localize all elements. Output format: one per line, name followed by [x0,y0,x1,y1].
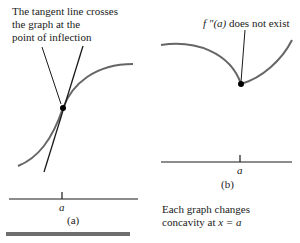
footer-note-text: concavity at [162,216,218,228]
panel-a-graph [9,46,138,199]
annotation-a-line1: The tangent line crosses [12,5,118,18]
caption-b: (b) [221,178,234,191]
cusp-curve-left [161,44,241,84]
annotation-b-math: f ″(a) [203,17,226,29]
axis-label-b: a [237,164,243,177]
inflection-curve [18,64,133,166]
axis-label-a: a [59,201,65,214]
annotation-a-line3: point of inflection [12,31,91,44]
cusp-point [238,81,244,87]
footer-note-line1: Each graph changes [162,203,250,216]
gray-bar [6,232,130,236]
caption-a: (a) [67,214,79,227]
annotation-pointer-b [241,30,245,82]
footer-note-line2: concavity at x = a [162,216,242,229]
annotation-b: f ″(a) does not exist [203,17,289,30]
annotation-a-line2: the graph at the [12,18,80,31]
cusp-curve-right [241,40,292,84]
inflection-point [60,105,66,111]
panel-b-graph [161,30,292,162]
annotation-pointer-a [42,47,61,104]
footer-note-math: x = a [218,216,241,228]
annotation-b-text: does not exist [226,17,289,29]
